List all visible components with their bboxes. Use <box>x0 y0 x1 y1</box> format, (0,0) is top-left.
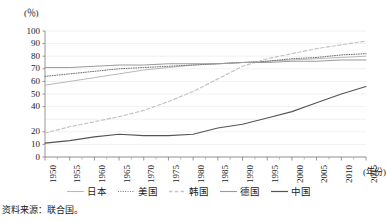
x-axis-tick-label: 1985 <box>221 165 230 183</box>
y-axis-tick-label: 40 <box>16 102 40 111</box>
y-axis-tick-label: 100 <box>16 27 40 36</box>
legend-item-德国[interactable]: 德国 <box>220 184 260 198</box>
legend-swatch-日本 <box>67 188 84 195</box>
y-axis-tick-label: 80 <box>16 52 40 61</box>
x-axis-tick-label: 1995 <box>271 165 280 183</box>
x-axis-unit-label: (年份) <box>363 165 386 178</box>
legend-label: 中国 <box>291 184 311 198</box>
legend-swatch-德国 <box>220 188 237 195</box>
y-axis-tick-label: 0 <box>16 153 40 162</box>
legend-label: 韩国 <box>189 184 209 198</box>
x-axis-tick-label: 1960 <box>98 165 107 183</box>
series-line-德国 <box>45 60 366 68</box>
legend-swatch-韩国 <box>169 188 186 195</box>
x-axis-tick-label: 1965 <box>123 165 132 183</box>
y-axis-tick-label: 90 <box>16 39 40 48</box>
source-note: 资料来源：联合国。 <box>2 203 83 216</box>
y-axis-tick-label: 70 <box>16 64 40 73</box>
y-axis-tick-label: 10 <box>16 140 40 149</box>
x-axis-tick-label: 1950 <box>49 165 58 183</box>
legend-item-日本[interactable]: 日本 <box>67 184 107 198</box>
x-axis-tick-label: 1955 <box>73 165 82 183</box>
x-axis-tick-label: 1990 <box>246 165 255 183</box>
legend-swatch-美国 <box>118 188 135 195</box>
series-line-中国 <box>45 86 366 143</box>
chart-legend: 日本美国韩国德国中国 <box>0 184 377 198</box>
x-axis-tick-label: 2005 <box>320 165 329 183</box>
x-axis-tick-label: 2000 <box>296 165 305 183</box>
legend-label: 美国 <box>138 184 158 198</box>
series-line-日本 <box>45 56 366 85</box>
legend-label: 日本 <box>87 184 107 198</box>
y-axis-tick-label: 20 <box>16 127 40 136</box>
legend-item-美国[interactable]: 美国 <box>118 184 158 198</box>
legend-swatch-中国 <box>271 188 288 195</box>
x-axis-tick-label: 2010 <box>345 165 354 183</box>
legend-item-韩国[interactable]: 韩国 <box>169 184 209 198</box>
x-axis-tick-label: 1980 <box>197 165 206 183</box>
x-axis-tick-label: 1970 <box>147 165 156 183</box>
legend-label: 德国 <box>240 184 260 198</box>
y-axis-tick-label: 50 <box>16 90 40 99</box>
series-line-美国 <box>45 54 366 77</box>
y-axis-tick-label: 60 <box>16 77 40 86</box>
legend-item-中国[interactable]: 中国 <box>271 184 311 198</box>
x-axis-tick-label: 1975 <box>172 165 181 183</box>
